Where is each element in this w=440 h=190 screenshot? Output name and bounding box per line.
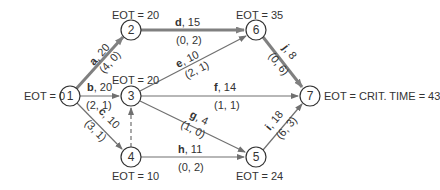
- node-5-label: 5: [253, 150, 260, 164]
- label-f: f, 14: [214, 81, 236, 93]
- network-diagram: 1 2 3 4 5 6 7 EOT = 0 EOT = 20 EOT: [0, 0, 440, 190]
- slack-f: (1, 1): [214, 99, 240, 111]
- label-b: b, 20: [87, 81, 112, 93]
- node-2: 2: [121, 20, 141, 40]
- node-6: 6: [246, 20, 266, 40]
- node-7-label: 7: [307, 89, 314, 103]
- eot-node-1: EOT = 0: [24, 90, 65, 102]
- eot-node-7: EOT = CRIT. TIME = 43: [324, 90, 440, 102]
- node-7: 7: [300, 86, 320, 106]
- node-4-label: 4: [128, 150, 135, 164]
- node-5: 5: [246, 147, 266, 167]
- slack-h: (0, 2): [178, 161, 204, 173]
- eot-node-6: EOT = 35: [236, 9, 283, 21]
- slack-d: (0, 2): [176, 34, 202, 46]
- node-3-label: 3: [128, 89, 135, 103]
- node-1-label: 1: [67, 89, 74, 103]
- eot-node-5: EOT = 24: [236, 170, 283, 182]
- node-2-label: 2: [128, 23, 135, 37]
- node-4: 4: [121, 147, 141, 167]
- node-6-label: 6: [253, 23, 260, 37]
- label-h: h, 11: [178, 143, 202, 155]
- label-d: d, 15: [175, 16, 200, 28]
- node-3: 3: [121, 86, 141, 106]
- eot-node-3: EOT = 20: [112, 74, 159, 86]
- eot-node-2: EOT = 20: [112, 9, 159, 21]
- eot-node-4: EOT = 10: [112, 170, 159, 182]
